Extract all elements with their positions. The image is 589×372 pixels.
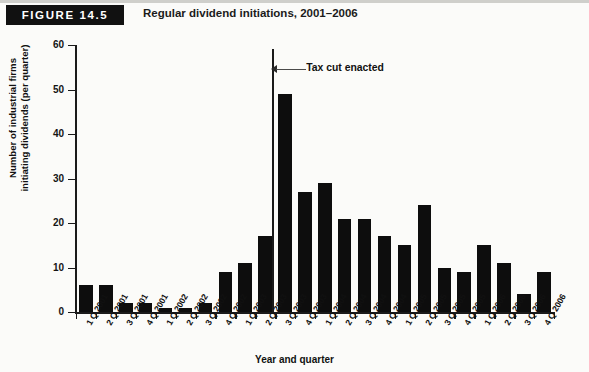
bar-slot: [76, 45, 96, 312]
x-axis-tick: [76, 313, 77, 319]
bar: [278, 94, 292, 312]
y-axis-tick: [68, 312, 76, 313]
bar-slot: [414, 45, 434, 312]
bar-slot: [136, 45, 156, 312]
bar-slot: [295, 45, 315, 312]
bar-slot: [275, 45, 295, 312]
y-axis-tick: [68, 134, 76, 135]
bar-chart: Number of industrial firms initiating di…: [0, 28, 589, 372]
bar-slot: [156, 45, 176, 312]
y-axis-tick-label: 10: [24, 262, 64, 273]
bar-slot: [335, 45, 355, 312]
bar-slot: [355, 45, 375, 312]
bar-slot: [474, 45, 494, 312]
bar-slot: [215, 45, 235, 312]
y-axis-tick: [68, 223, 76, 224]
bar-slot: [434, 45, 454, 312]
bar-slot: [454, 45, 474, 312]
y-axis-tick: [68, 268, 76, 269]
bar-slot: [534, 45, 554, 312]
y-axis-tick-label: 20: [24, 217, 64, 228]
y-axis-tick-label: 60: [24, 39, 64, 50]
bar-slot: [195, 45, 215, 312]
y-axis-tick-label: 50: [24, 84, 64, 95]
bar-slot: [514, 45, 534, 312]
x-axis-title: Year and quarter: [0, 354, 589, 365]
bar-slot: [395, 45, 415, 312]
y-axis-title-line-1: Number of industrial firms: [7, 58, 18, 178]
bar-slot: [235, 45, 255, 312]
y-axis-title: Number of industrial firms initiating di…: [7, 3, 31, 233]
bar-slot: [494, 45, 514, 312]
tax-cut-annotation-label: Tax cut enacted: [306, 62, 384, 73]
bar-series: [76, 45, 554, 312]
figure-title: Regular dividend initiations, 2001–2006: [143, 7, 358, 19]
bar-slot: [116, 45, 136, 312]
figure-page: FIGURE 14.5 Regular dividend initiations…: [0, 0, 589, 372]
bar-slot: [176, 45, 196, 312]
y-axis-title-line-2: initiating dividends (per quarter): [19, 44, 30, 191]
bar-slot: [315, 45, 335, 312]
y-axis-tick-label: 0: [24, 306, 64, 317]
y-axis-tick-label: 30: [24, 173, 64, 184]
y-axis-tick-label: 40: [24, 128, 64, 139]
y-axis-tick: [68, 45, 76, 46]
y-axis-tick: [68, 90, 76, 91]
tax-cut-leader-line: [276, 69, 306, 70]
bar-slot: [375, 45, 395, 312]
bar-slot: [96, 45, 116, 312]
header-rule: [0, 0, 589, 3]
tax-cut-marker-line: [272, 49, 274, 312]
y-axis-tick: [68, 179, 76, 180]
